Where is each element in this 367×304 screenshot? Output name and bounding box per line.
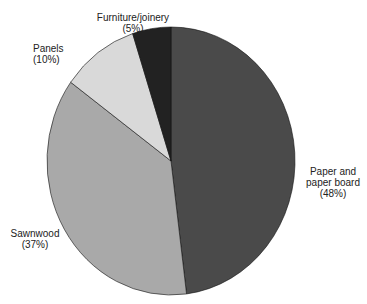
label-pct: (5%) (88, 23, 178, 34)
label-panels: Panels (10%) (33, 43, 93, 65)
label-paper: Paper and paper board (48%) (300, 166, 366, 199)
label-pct: (37%) (5, 239, 65, 250)
label-text: Sawnwood (5, 228, 65, 239)
label-text: Paper and (300, 166, 366, 177)
label-pct: (48%) (300, 188, 366, 199)
pie-slice (171, 27, 295, 294)
label-sawnwood: Sawnwood (37%) (5, 228, 65, 250)
label-furniture: Furniture/joinery (5%) (88, 12, 178, 34)
label-text2: paper board (300, 177, 366, 188)
label-text: Furniture/joinery (88, 12, 178, 23)
